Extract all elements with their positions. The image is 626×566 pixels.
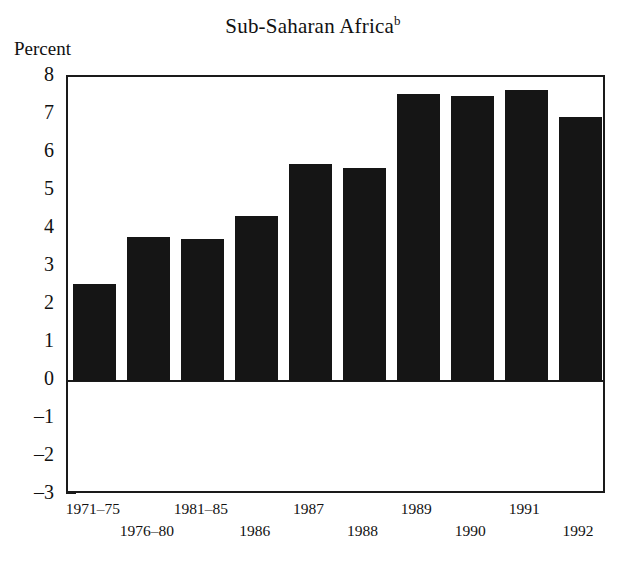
y-axis-tick-label: 1 [44, 330, 54, 350]
y-axis-tick-label: 3 [44, 254, 54, 274]
y-axis-tick-label: 0 [44, 368, 54, 388]
y-axis-title: Percent [14, 38, 71, 60]
bar [181, 239, 224, 382]
y-axis-tick-label: –2 [34, 444, 54, 464]
y-axis-tick-label: 8 [44, 64, 54, 84]
y-axis-tick-label: 4 [44, 216, 54, 236]
x-axis-tick-label: 1992 [528, 523, 626, 539]
bar [289, 164, 332, 381]
x-axis-tick-label: 1991 [474, 501, 574, 517]
y-axis-tick-label: –3 [34, 482, 54, 502]
x-axis-tick-label: 1987 [259, 501, 359, 517]
x-axis-tick-label: 1976–80 [97, 523, 197, 539]
x-axis-tick-label: 1989 [366, 501, 466, 517]
bar [451, 96, 494, 381]
y-axis-tick-label: 2 [44, 292, 54, 312]
bar [559, 117, 602, 381]
bar-chart-figure: Sub-Saharan Africab Percent 876543210–1–… [0, 0, 626, 566]
chart-title-footnote-marker: b [394, 13, 401, 28]
plot-area [66, 75, 605, 493]
bar [343, 168, 386, 381]
x-axis-tick-label: 1986 [205, 523, 305, 539]
x-axis-tick-label: 1981–85 [151, 501, 251, 517]
y-axis-tick-label: –1 [34, 406, 54, 426]
y-axis-tick-label: 6 [44, 140, 54, 160]
x-axis-tick-label: 1990 [420, 523, 520, 539]
bar [505, 90, 548, 381]
bar [397, 94, 440, 381]
chart-title: Sub-Saharan Africab [0, 14, 626, 39]
y-axis-tick-label: 7 [44, 102, 54, 122]
x-axis-tick-label: 1988 [312, 523, 412, 539]
x-axis-tick-label: 1971–75 [43, 501, 143, 517]
bar [127, 237, 170, 381]
y-axis-tick-label: 5 [44, 178, 54, 198]
bar [235, 216, 278, 381]
chart-title-text: Sub-Saharan Africa [225, 14, 394, 38]
bar [73, 284, 116, 381]
